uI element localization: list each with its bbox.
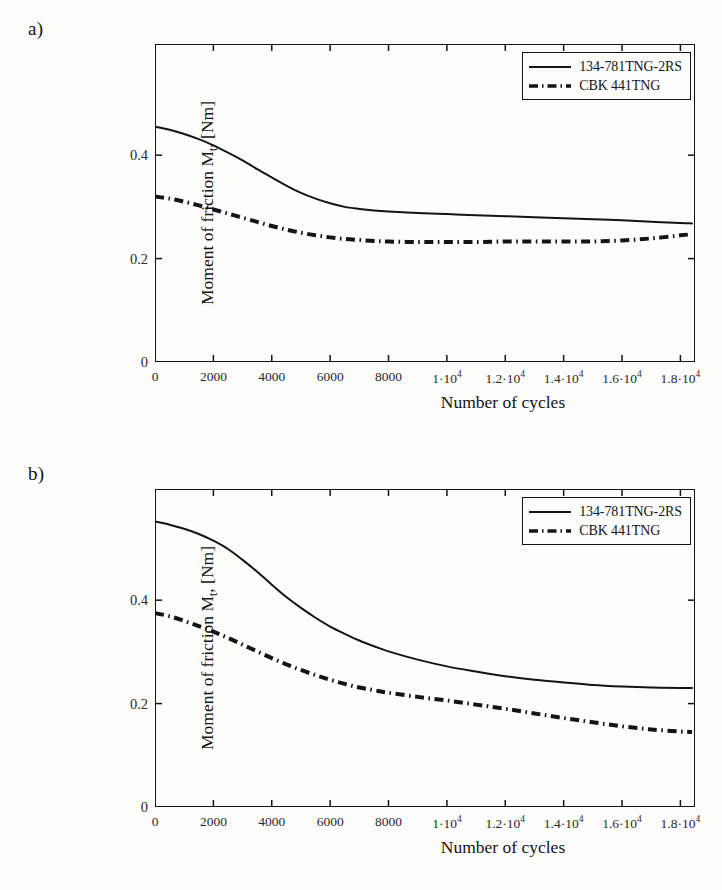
y-axis-label-main-a: Moment of friction M [197, 151, 217, 305]
panel-label-b: b) [28, 463, 44, 485]
x-tick-label: 1.6·104 [602, 814, 642, 832]
y-tick-label: 0 [141, 354, 148, 371]
chart-panel-b: b) Moment of friction Mt, [Nm] 00.20.4 0… [0, 445, 722, 890]
x-tick-label: 1.2·104 [485, 814, 525, 832]
y-axis-label-sub-b: t [206, 593, 220, 596]
legend-label-series-1-b: 134-781TNG-2RS [579, 504, 682, 520]
figure-page: a) Moment of friction Mt, [Nm] 00.20.4 0… [0, 0, 722, 890]
x-axis-label-b: Number of cycles [233, 837, 722, 858]
legend-label-series-2-b: CBK 441TNG [579, 523, 660, 539]
x-axis-label-a: Number of cycles [233, 392, 722, 413]
legend-label-series-1-a: 134-781TNG-2RS [579, 59, 682, 75]
legend-a: 134-781TNG-2RS CBK 441TNG [522, 52, 691, 100]
y-axis-label-tail-a: , [Nm] [197, 101, 217, 148]
y-tick-label: 0.2 [130, 695, 148, 712]
legend-row-series-2-a: CBK 441TNG [528, 76, 682, 95]
legend-row-series-1-b: 134-781TNG-2RS [528, 502, 682, 521]
x-tick-label: 1·104 [432, 814, 462, 832]
x-tick-label: 1.6·104 [602, 369, 642, 387]
x-tick-label: 4000 [258, 369, 285, 385]
x-tick-label: 1.4·104 [544, 814, 584, 832]
x-tick-label: 6000 [317, 369, 344, 385]
plot-area-b: Moment of friction Mt, [Nm] 00.20.4 0200… [155, 489, 695, 807]
y-tick-label: 0 [141, 799, 148, 816]
x-tick-label: 0 [152, 369, 159, 385]
legend-row-series-2-b: CBK 441TNG [528, 521, 682, 540]
x-tick-label: 1·104 [432, 369, 462, 387]
y-axis-label-a: Moment of friction Mt, [Nm] [197, 53, 222, 353]
legend-sample-solid-b [528, 506, 572, 518]
x-tick-label: 8000 [375, 369, 402, 385]
x-tick-label: 6000 [317, 814, 344, 830]
legend-sample-dashdot-a [528, 80, 572, 92]
x-tick-label: 2000 [200, 369, 227, 385]
panel-label-a: a) [28, 18, 43, 40]
legend-label-series-2-a: CBK 441TNG [579, 78, 660, 94]
legend-sample-dashdot-b [528, 525, 572, 537]
y-axis-label-tail-b: , [Nm] [197, 546, 217, 593]
y-tick-label: 0.4 [130, 147, 148, 164]
y-axis-label-b: Moment of friction Mt, [Nm] [197, 498, 222, 798]
x-tick-label: 8000 [375, 814, 402, 830]
plot-area-a: Moment of friction Mt, [Nm] 00.20.4 0200… [155, 44, 695, 362]
x-tick-label: 1.8·104 [661, 814, 701, 832]
x-tick-label: 4000 [258, 814, 285, 830]
x-tick-label: 1.4·104 [544, 369, 584, 387]
legend-sample-solid-a [528, 61, 572, 73]
y-axis-label-sub-a: t [206, 148, 220, 151]
y-tick-label: 0.2 [130, 250, 148, 267]
x-tick-label: 2000 [200, 814, 227, 830]
legend-b: 134-781TNG-2RS CBK 441TNG [522, 497, 691, 545]
x-tick-label: 0 [152, 814, 159, 830]
y-tick-label: 0.4 [130, 592, 148, 609]
x-tick-label: 1.8·104 [661, 369, 701, 387]
legend-row-series-1-a: 134-781TNG-2RS [528, 57, 682, 76]
x-tick-label: 1.2·104 [485, 369, 525, 387]
chart-panel-a: a) Moment of friction Mt, [Nm] 00.20.4 0… [0, 0, 722, 445]
y-axis-label-main-b: Moment of friction M [197, 596, 217, 750]
